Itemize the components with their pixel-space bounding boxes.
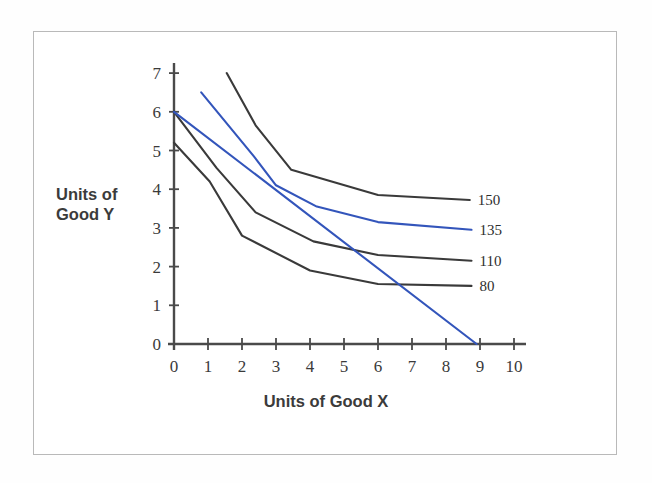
x-tick-label: 5 [340, 357, 349, 376]
curve-label-135: 135 [480, 222, 503, 238]
x-tick-label: 7 [408, 357, 417, 376]
y-tick-label: 1 [153, 296, 162, 315]
x-tick-label: 10 [506, 357, 523, 376]
y-axis-title-line1: Units of [56, 185, 118, 203]
x-tick-label: 2 [238, 357, 247, 376]
curve-110 [174, 112, 472, 261]
indifference-curve-chart: 012345678910 01234567 15013511080 Units … [34, 32, 618, 456]
x-tick-label: 4 [306, 357, 315, 376]
y-tick-label: 7 [153, 64, 162, 83]
x-axis-title: Units of Good X [264, 392, 389, 410]
x-tick-label: 3 [272, 357, 281, 376]
curve-labels-group: 15013511080 [478, 192, 502, 294]
curve-label-110: 110 [480, 253, 502, 269]
y-tick-label: 0 [153, 335, 162, 354]
y-axis-title-line2: Good Y [56, 205, 114, 223]
curves-group [174, 73, 477, 344]
curve-label-150: 150 [478, 192, 501, 208]
axis-titles-group: Units of Good X Units of Good Y [56, 185, 388, 410]
figure-page: 012345678910 01234567 15013511080 Units … [0, 0, 652, 483]
curve-80 [174, 143, 472, 286]
figure-frame: 012345678910 01234567 15013511080 Units … [33, 31, 617, 455]
curve-135 [201, 92, 471, 229]
y-tick-label: 4 [153, 180, 162, 199]
y-tick-label: 5 [153, 142, 162, 161]
x-tick-label: 1 [204, 357, 213, 376]
x-tick-label: 0 [170, 357, 179, 376]
x-tick-label: 9 [476, 357, 485, 376]
x-tick-label: 8 [442, 357, 451, 376]
y-tick-label: 6 [153, 103, 162, 122]
curve-label-80: 80 [480, 278, 495, 294]
axes-group [168, 63, 526, 350]
y-tick-label: 3 [153, 219, 162, 238]
x-tick-label: 6 [374, 357, 383, 376]
y-tick-label: 2 [153, 258, 162, 277]
curve-budget-line [174, 112, 477, 344]
